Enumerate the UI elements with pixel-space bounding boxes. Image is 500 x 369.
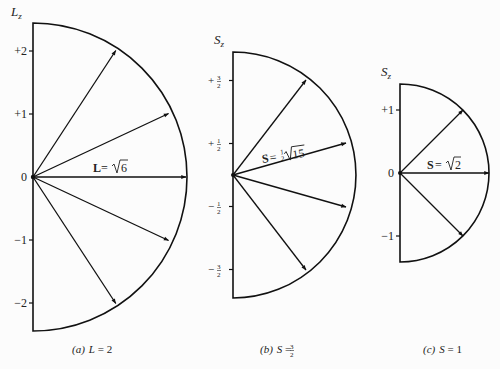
caption-a: (a)L = 2	[72, 343, 112, 356]
vector-label-b: S = 1 2 15	[261, 145, 307, 166]
svg-text:3: 3	[217, 74, 221, 82]
svg-text:2: 2	[217, 145, 221, 153]
svg-text:3: 3	[217, 263, 221, 271]
tick-labels-a: +2 +1 0 −1 −2	[14, 44, 27, 310]
svg-text:S: S	[427, 158, 434, 172]
svg-text:2: 2	[455, 158, 461, 172]
svg-text:2: 2	[290, 351, 294, 359]
axis-label-b: Sz	[214, 32, 225, 49]
svg-text:3: 3	[290, 343, 294, 351]
svg-text:−2: −2	[14, 296, 27, 310]
svg-text:+: +	[208, 137, 214, 149]
caption-c: (c)S = 1	[423, 343, 462, 356]
svg-text:0: 0	[388, 166, 394, 180]
svg-text:2: 2	[217, 271, 221, 279]
svg-text:15: 15	[292, 146, 306, 162]
svg-text:2: 2	[217, 82, 221, 90]
svg-text:=: =	[101, 161, 108, 175]
axis-label-c: Sz	[381, 64, 392, 81]
svg-text:2: 2	[217, 208, 221, 216]
caption-b: (b)S =	[260, 343, 291, 356]
svg-text:L: L	[93, 161, 101, 175]
vector-m-3half	[233, 175, 306, 270]
svg-text:−1: −1	[14, 233, 27, 247]
panel-c: Sz +1 0 −1 S = 2 (c)S = 1	[381, 64, 489, 356]
panel-a: Lz +2 +1 0 −1 −2 L = 6 (a)L = 2	[10, 4, 187, 356]
vector-m-1	[400, 173, 463, 236]
svg-text:+1: +1	[14, 107, 27, 121]
angular-momentum-figure: Lz +2 +1 0 −1 −2 L = 6 (a)L = 2	[0, 0, 500, 369]
vectors-a	[33, 51, 186, 304]
vector-m-1half	[233, 175, 346, 207]
semicircle-b	[233, 52, 356, 298]
vectors-b	[233, 80, 346, 270]
vector-label-c: S = 2	[427, 157, 461, 172]
vectors-c	[400, 110, 489, 236]
svg-text:0: 0	[21, 170, 27, 184]
svg-text:6: 6	[121, 161, 127, 175]
svg-text:1: 1	[217, 200, 221, 208]
svg-text:+: +	[208, 74, 214, 86]
svg-text:−: −	[208, 263, 214, 275]
svg-text:1: 1	[217, 137, 221, 145]
svg-text:+2: +2	[14, 44, 27, 58]
tick-labels-c: +1 0 −1	[381, 103, 394, 243]
caption-b-fraction: 3 2	[290, 343, 294, 359]
svg-text:+1: +1	[381, 103, 394, 117]
svg-text:=: =	[435, 158, 442, 172]
tick-labels-b: + 3 2 + 1 2 − 1 2 − 3 2	[208, 74, 221, 279]
vector-label-a: L = 6	[93, 160, 128, 175]
svg-text:−: −	[208, 200, 214, 212]
panel-b: Sz + 3 2 + 1 2 − 1 2 − 3	[208, 32, 356, 359]
svg-text:−1: −1	[381, 229, 394, 243]
svg-text:2: 2	[281, 155, 286, 163]
axis-label-a: Lz	[10, 4, 22, 21]
svg-text:=: =	[269, 150, 278, 165]
